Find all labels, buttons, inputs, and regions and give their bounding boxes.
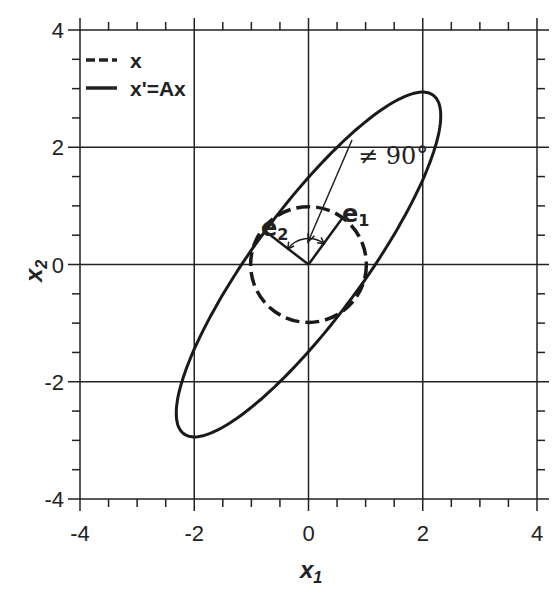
x-tick-label: 0 [302,521,314,546]
x-tick-label: 2 [417,521,429,546]
angle-label: ≠ 90° [358,142,428,170]
y-tick-label: -4 [44,487,64,512]
legend-label-x: x [130,49,142,72]
e2-label: e2 [261,214,288,244]
y-tick-label: 2 [52,135,64,160]
y-tick-label: 4 [52,18,64,43]
ellipse-transform-chart: -4-2024 -4-2024 x1 x2 x x'=Ax ≠ 90° e2 e… [0,0,556,594]
x-axis-title: x1 [298,556,322,586]
y-tick-label: -2 [44,370,64,395]
y-tick-label: 0 [52,253,64,278]
legend-label-ax: x'=Ax [130,77,186,100]
x-tick-label: 4 [531,521,543,546]
x-tick-labels: -4-2024 [70,521,543,546]
e1-vector [309,218,343,265]
x-tick-label: -4 [70,521,90,546]
angle-arc [288,239,324,249]
e1-label: e1 [342,200,369,230]
x-tick-label: -2 [184,521,204,546]
y-axis-title: x2 [20,260,50,284]
legend: x x'=Ax [86,49,186,100]
